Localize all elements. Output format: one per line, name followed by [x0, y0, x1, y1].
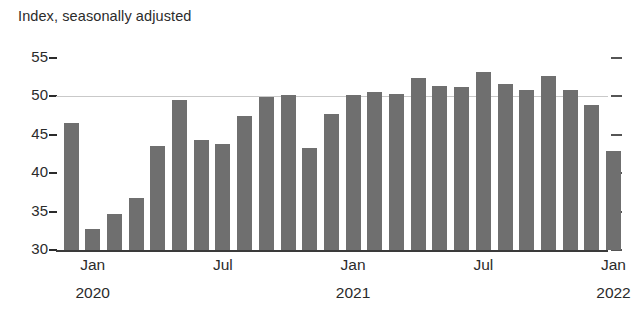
bar [563, 90, 578, 251]
y-tick-label: 45 [14, 125, 48, 142]
y-tick-label: 30 [14, 240, 48, 257]
bar [129, 198, 144, 250]
bar [237, 116, 252, 250]
bar [107, 214, 122, 250]
y-tick-label: 35 [14, 202, 48, 219]
x-tick-label: Jan [341, 256, 366, 274]
chart-title: Index, seasonally adjusted [18, 8, 192, 24]
bar [64, 123, 79, 250]
bar [498, 84, 513, 250]
x-year-label: 2020 [75, 284, 109, 302]
y-tick-label: 50 [14, 86, 48, 103]
bar [172, 100, 187, 250]
right-tick-mark [611, 95, 622, 97]
bar-series [56, 46, 608, 250]
bar [476, 72, 491, 250]
x-tick-label: Jul [473, 256, 493, 274]
bar [281, 95, 296, 250]
x-tick-label: Jan [80, 256, 105, 274]
bar [346, 95, 361, 250]
bar [324, 114, 339, 250]
x-axis-baseline [56, 250, 608, 252]
x-tick-label: Jan [601, 256, 626, 274]
bar [302, 148, 317, 250]
bar [519, 90, 534, 251]
x-year-label: 2021 [336, 284, 370, 302]
right-tick-mark [611, 57, 622, 59]
y-tick-label: 55 [14, 48, 48, 65]
x-year-label: 2022 [596, 284, 630, 302]
bar [454, 87, 469, 250]
bar [389, 94, 404, 250]
bar [85, 229, 100, 251]
bar [606, 151, 621, 250]
y-tick-label: 40 [14, 163, 48, 180]
bar [432, 86, 447, 250]
bar [215, 144, 230, 250]
bar [584, 105, 599, 250]
right-tick-mark [611, 134, 622, 136]
bar [259, 97, 274, 250]
bar [411, 78, 426, 250]
chart-container: Index, seasonally adjusted 303540455055 … [0, 0, 639, 318]
x-tick-label: Jul [213, 256, 233, 274]
bar [150, 146, 165, 250]
bar [541, 76, 556, 250]
bar [194, 140, 209, 250]
bar [367, 92, 382, 250]
